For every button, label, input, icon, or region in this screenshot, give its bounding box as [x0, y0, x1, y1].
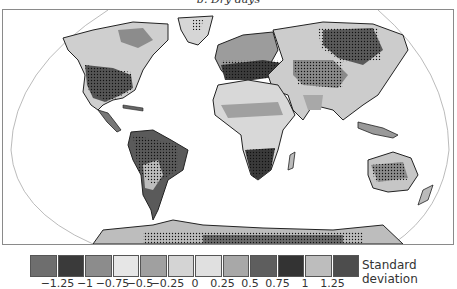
central-america: [98, 110, 121, 132]
map-title: b. Dry days: [0, 0, 457, 6]
colorbar-tick-label: −0.75: [96, 277, 130, 289]
colorbar-swatch: [250, 255, 277, 277]
colorbar-swatch: [85, 255, 112, 277]
colorbar-tick-label: 0: [192, 277, 199, 289]
colorbar-tick-label: 0.25: [210, 277, 235, 289]
colorbar-tick-label: −1: [77, 277, 93, 289]
colorbar-swatch: [30, 255, 57, 277]
colorbar-swatch: [140, 255, 167, 277]
new-zealand: [418, 185, 433, 205]
australia-stipple: [371, 162, 407, 182]
colorbar: [30, 255, 360, 277]
colorbar-ticks: −1.25−1−0.75−0.5−0.2500.250.50.7511.25: [0, 277, 457, 289]
madagascar: [288, 152, 295, 170]
antarctica-stipple: [143, 232, 363, 244]
colorbar-swatch: [113, 255, 140, 277]
colorbar-tick-label: 1: [302, 277, 309, 289]
colorbar-swatch: [58, 255, 85, 277]
colorbar-tick-label: −0.5: [127, 277, 154, 289]
southern-africa-stipple: [245, 148, 275, 178]
colorbar-tick-label: −1.25: [41, 277, 75, 289]
colorbar-swatch: [278, 255, 305, 277]
colorbar-tick-label: −0.25: [151, 277, 185, 289]
colorbar-swatch: [333, 255, 360, 277]
colorbar-tick-label: 0.75: [265, 277, 290, 289]
caribbean: [123, 105, 143, 111]
colorbar-swatch: [223, 255, 250, 277]
world-map: [3, 10, 454, 244]
colorbar-swatch: [168, 255, 195, 277]
se-asia-islands: [358, 122, 398, 138]
colorbar-tick-label: 0.5: [241, 277, 259, 289]
central-asia-stipple: [293, 60, 343, 88]
colorbar-tick-label: 1.25: [320, 277, 345, 289]
colorbar-swatch: [305, 255, 332, 277]
colorbar-swatch: [195, 255, 222, 277]
